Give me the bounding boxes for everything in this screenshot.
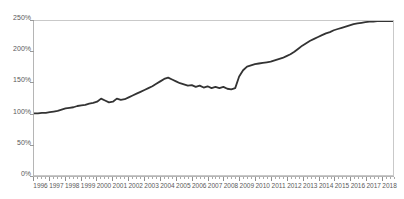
plot-area <box>33 20 394 176</box>
x-minor-tick <box>132 177 133 179</box>
x-minor-tick <box>53 177 54 179</box>
x-major-tick <box>239 177 240 181</box>
x-minor-tick <box>100 177 101 179</box>
x-minor-tick <box>390 177 391 179</box>
x-minor-tick <box>140 177 141 179</box>
x-minor-tick <box>200 177 201 179</box>
x-tick-label: 2000 <box>97 182 111 190</box>
x-minor-tick <box>267 177 268 179</box>
x-tick-label: 2004 <box>160 182 174 190</box>
y-tick-label: 150% <box>13 76 31 84</box>
x-minor-tick <box>386 177 387 179</box>
x-minor-tick <box>196 177 197 179</box>
x-minor-tick <box>136 177 137 179</box>
x-minor-tick <box>57 177 58 179</box>
y-tick-label: 50% <box>17 139 31 147</box>
x-minor-tick <box>41 177 42 179</box>
x-tick-label: 1997 <box>49 182 63 190</box>
x-major-tick <box>350 177 351 181</box>
x-minor-tick <box>124 177 125 179</box>
x-minor-tick <box>156 177 157 179</box>
x-minor-tick <box>327 177 328 179</box>
x-tick-label: 2003 <box>144 182 158 190</box>
x-minor-tick <box>283 177 284 179</box>
x-minor-tick <box>212 177 213 179</box>
x-minor-tick <box>120 177 121 179</box>
x-minor-tick <box>378 177 379 179</box>
x-minor-tick <box>172 177 173 179</box>
x-tick-label: 1999 <box>81 182 95 190</box>
x-minor-tick <box>279 177 280 179</box>
y-tick-label: 0% <box>21 170 31 178</box>
x-tick-label: 1998 <box>65 182 79 190</box>
x-minor-tick <box>152 177 153 179</box>
x-tick-label: 2006 <box>192 182 206 190</box>
x-minor-tick <box>231 177 232 179</box>
x-minor-tick <box>93 177 94 179</box>
x-major-tick <box>176 177 177 181</box>
x-major-tick <box>96 177 97 181</box>
x-minor-tick <box>73 177 74 179</box>
x-minor-tick <box>243 177 244 179</box>
x-minor-tick <box>215 177 216 179</box>
x-minor-tick <box>77 177 78 179</box>
x-minor-tick <box>342 177 343 179</box>
y-axis-line <box>33 20 34 177</box>
x-major-tick <box>81 177 82 181</box>
x-minor-tick <box>259 177 260 179</box>
x-tick-label: 2012 <box>287 182 301 190</box>
x-minor-tick <box>227 177 228 179</box>
x-tick-label: 2017 <box>366 182 380 190</box>
x-major-tick <box>112 177 113 181</box>
x-major-tick <box>223 177 224 181</box>
x-tick-label: 2007 <box>208 182 222 190</box>
x-tick-label: 2018 <box>382 182 396 190</box>
x-minor-tick <box>338 177 339 179</box>
x-minor-tick <box>370 177 371 179</box>
x-major-tick <box>255 177 256 181</box>
x-major-tick <box>65 177 66 181</box>
x-tick-label: 2013 <box>303 182 317 190</box>
x-minor-tick <box>247 177 248 179</box>
x-minor-tick <box>374 177 375 179</box>
x-major-tick <box>334 177 335 181</box>
y-tick-label: 100% <box>13 108 31 116</box>
x-minor-tick <box>291 177 292 179</box>
x-major-tick <box>366 177 367 181</box>
x-minor-tick <box>295 177 296 179</box>
x-minor-tick <box>219 177 220 179</box>
x-major-tick <box>33 177 34 181</box>
x-minor-tick <box>275 177 276 179</box>
x-minor-tick <box>188 177 189 179</box>
x-tick-label: 2009 <box>240 182 254 190</box>
x-tick-label: 2008 <box>224 182 238 190</box>
x-minor-tick <box>61 177 62 179</box>
series-line <box>34 21 393 113</box>
x-tick-label: 2014 <box>319 182 333 190</box>
x-minor-tick <box>164 177 165 179</box>
x-minor-tick <box>315 177 316 179</box>
x-minor-tick <box>299 177 300 179</box>
x-major-tick <box>319 177 320 181</box>
x-major-tick <box>192 177 193 181</box>
x-tick-label: 2005 <box>176 182 190 190</box>
x-major-tick <box>271 177 272 181</box>
x-minor-tick <box>45 177 46 179</box>
x-minor-tick <box>180 177 181 179</box>
y-tick-label: 250% <box>13 14 31 22</box>
x-major-tick <box>160 177 161 181</box>
x-minor-tick <box>311 177 312 179</box>
x-tick-label: 2015 <box>335 182 349 190</box>
x-tick-label: 2002 <box>128 182 142 190</box>
x-minor-tick <box>323 177 324 179</box>
x-major-tick <box>49 177 50 181</box>
x-major-tick <box>382 177 383 181</box>
x-tick-label: 2011 <box>272 182 286 190</box>
x-minor-tick <box>69 177 70 179</box>
x-minor-tick <box>235 177 236 179</box>
series-line-svg <box>34 21 393 175</box>
x-tick-label: 2001 <box>113 182 127 190</box>
x-axis-line <box>33 176 394 177</box>
x-minor-tick <box>331 177 332 179</box>
x-minor-tick <box>394 177 395 179</box>
